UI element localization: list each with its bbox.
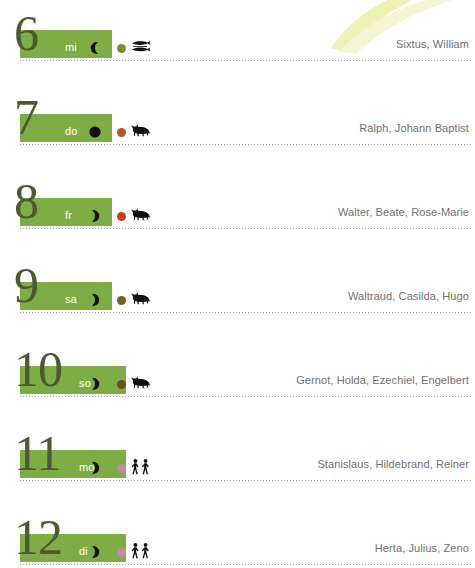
element-dot-icon <box>117 548 126 557</box>
zodiac-taurus-bull-icon <box>130 290 152 308</box>
element-dot-icon <box>117 128 126 137</box>
moon-waxing-crescent-icon <box>88 293 102 307</box>
element-dot-icon <box>117 464 126 473</box>
zodiac-taurus-bull-icon <box>130 374 152 392</box>
day-number: 12 <box>14 512 62 562</box>
moon-waning-crescent-icon <box>88 41 102 55</box>
name-day-text: Walter, Beate, Rose-Marie <box>338 206 469 219</box>
name-day-text: Waltraud, Casilda, Hugo <box>348 290 469 303</box>
weekday-abbreviation: mi <box>65 42 77 53</box>
row-divider <box>20 60 471 61</box>
calendar-day-row[interactable]: 8frWalter, Beate, Rose-Marie <box>0 170 475 254</box>
day-number: 9 <box>14 260 38 310</box>
calendar-day-row[interactable]: 10soGernot, Holda, Ezechiel, Engelbert <box>0 338 475 422</box>
calendar-day-row[interactable]: 7doRalph, Johann Baptist <box>0 86 475 170</box>
weekday-abbreviation: fr <box>65 210 72 221</box>
weekday-abbreviation: do <box>65 126 78 137</box>
day-number: 10 <box>14 344 62 394</box>
calendar-day-row[interactable]: 11moStanislaus, Hildebrand, Reiner <box>0 422 475 506</box>
name-day-text: Stanislaus, Hildebrand, Reiner <box>317 458 469 471</box>
moon-new-icon <box>88 125 102 139</box>
row-divider <box>20 396 471 397</box>
row-divider <box>20 228 471 229</box>
moon-waxing-crescent-icon <box>88 377 102 391</box>
calendar-day-row[interactable]: 9saWaltraud, Casilda, Hugo <box>0 254 475 338</box>
name-day-text: Herta, Julius, Zeno <box>375 542 469 555</box>
weekday-abbreviation: di <box>79 546 88 557</box>
calendar-day-row[interactable]: 12diHerta, Julius, Zeno <box>0 506 475 568</box>
calendar-day-list: 6miSixtus, William7doRalph, Johann Bapti… <box>0 0 475 568</box>
row-divider <box>20 144 471 145</box>
zodiac-gemini-twins-icon <box>130 458 152 476</box>
day-number: 11 <box>14 428 60 478</box>
name-day-text: Sixtus, William <box>396 38 469 51</box>
moon-waxing-crescent-icon <box>88 461 102 475</box>
element-dot-icon <box>117 212 126 221</box>
day-number: 8 <box>14 176 38 226</box>
calendar-day-row[interactable]: 6miSixtus, William <box>0 2 475 86</box>
moon-waxing-crescent-icon <box>88 209 102 223</box>
element-dot-icon <box>117 380 126 389</box>
name-day-text: Ralph, Johann Baptist <box>359 122 469 135</box>
row-divider <box>20 564 471 565</box>
element-dot-icon <box>117 44 126 53</box>
zodiac-pisces-fish-icon <box>130 38 152 56</box>
zodiac-taurus-bull-icon <box>130 122 152 140</box>
zodiac-taurus-bull-icon <box>130 206 152 224</box>
row-divider <box>20 480 471 481</box>
day-number: 7 <box>14 92 38 142</box>
row-divider <box>20 312 471 313</box>
moon-waxing-crescent-icon <box>88 545 102 559</box>
element-dot-icon <box>117 296 126 305</box>
zodiac-gemini-twins-icon <box>130 542 152 560</box>
name-day-text: Gernot, Holda, Ezechiel, Engelbert <box>296 374 469 387</box>
weekday-abbreviation: sa <box>65 294 77 305</box>
day-number: 6 <box>14 8 38 58</box>
